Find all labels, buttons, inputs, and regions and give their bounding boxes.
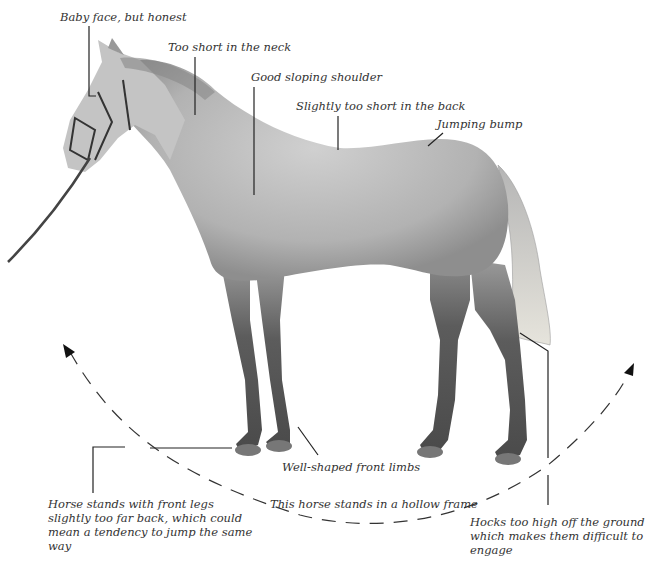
- horse-conformation-diagram: Baby face, but honest Too short in the n…: [0, 0, 665, 565]
- label-back: Slightly too short in the back: [296, 99, 465, 113]
- arrow-head-right-icon: [624, 363, 634, 376]
- horse-illustration: [0, 0, 665, 565]
- horse-body: [120, 60, 508, 281]
- label-baby-face: Baby face, but honest: [60, 10, 187, 24]
- label-front-legs: Horse stands with front legs slightly to…: [48, 497, 253, 553]
- label-hollow-frame: This horse stands in a hollow frame: [270, 497, 478, 511]
- label-neck: Too short in the neck: [168, 40, 291, 54]
- leader-front-limbs: [298, 427, 318, 455]
- label-front-limbs: Well-shaped front limbs: [282, 460, 420, 474]
- horse-reins: [8, 158, 90, 262]
- arrow-head-left-icon: [63, 344, 75, 358]
- leader-front-legs-a: [93, 447, 125, 493]
- horse-front-legs: [220, 260, 292, 456]
- label-shoulder: Good sloping shoulder: [251, 70, 382, 84]
- label-jumping-bump: Jumping bump: [437, 117, 522, 131]
- label-hocks: Hocks too high off the ground which make…: [470, 515, 655, 557]
